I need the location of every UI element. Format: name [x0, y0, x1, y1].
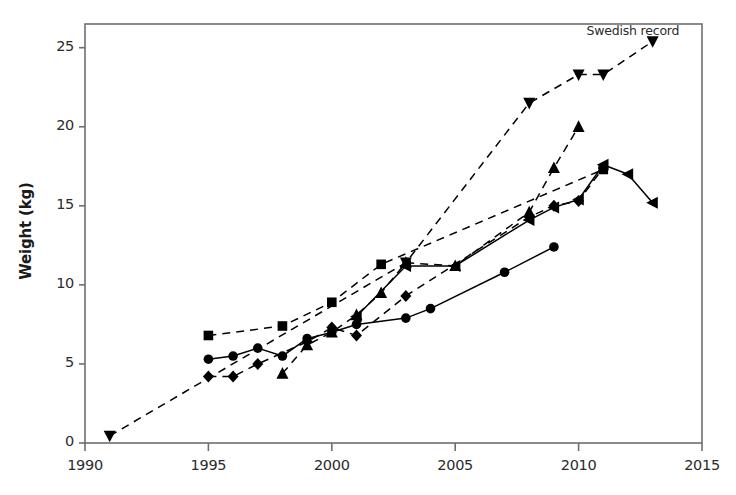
data-marker-circle — [204, 354, 214, 364]
y-axis-tick-label: 5 — [30, 354, 74, 370]
y-axis-tick-label: 15 — [30, 196, 74, 212]
x-axis-tick-label: 2005 — [415, 457, 495, 473]
data-marker-circle — [302, 334, 312, 344]
data-marker-circle — [549, 242, 559, 252]
x-axis-tick-label: 1990 — [45, 457, 125, 473]
data-marker-circle — [500, 267, 510, 277]
y-axis-tick-label: 20 — [30, 117, 74, 133]
data-marker-circle — [426, 304, 436, 314]
chart-figure: Weight (kg) 0510152025 19901995200020052… — [0, 0, 736, 495]
data-marker-circle — [352, 320, 362, 330]
data-marker-square — [327, 297, 337, 307]
y-axis-tick-label: 0 — [30, 433, 74, 449]
data-marker-circle — [401, 313, 411, 323]
annotation-swedish-record: Swedish record — [573, 23, 693, 38]
x-axis-tick-label: 2015 — [662, 457, 736, 473]
data-marker-circle — [278, 351, 288, 361]
data-marker-square — [204, 331, 214, 341]
data-marker-circle — [253, 343, 263, 353]
y-axis-tick-label: 10 — [30, 275, 74, 291]
data-marker-circle — [327, 328, 337, 338]
plot-frame — [85, 24, 702, 443]
data-marker-circle — [228, 351, 238, 361]
y-axis-tick-label: 25 — [30, 38, 74, 54]
x-axis-tick-label: 2000 — [292, 457, 372, 473]
plot-area — [0, 0, 736, 495]
x-axis-tick-label: 1995 — [168, 457, 248, 473]
data-marker-square — [278, 321, 288, 331]
x-axis-tick-label: 2010 — [539, 457, 619, 473]
data-marker-square — [376, 260, 386, 270]
